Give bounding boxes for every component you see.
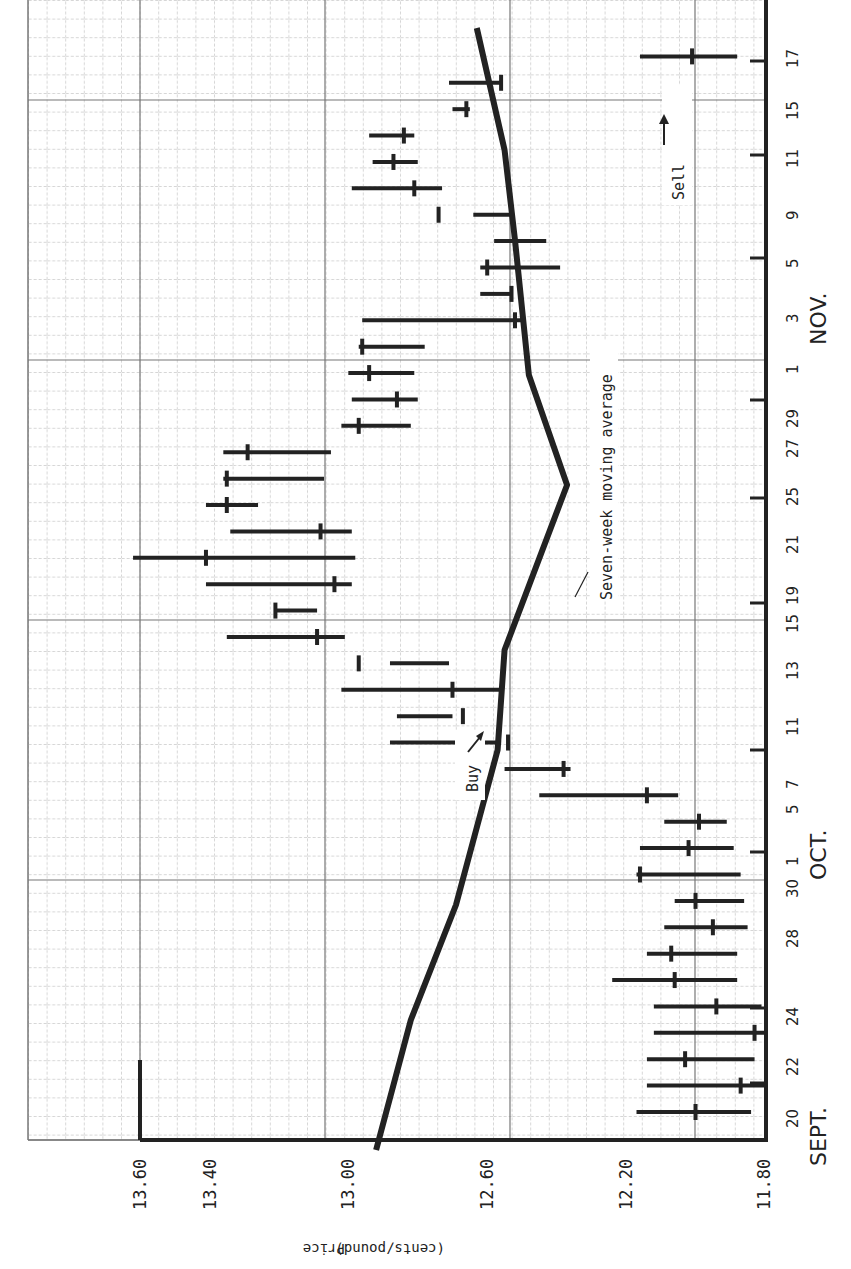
price-tick-label: 13.00 (338, 1159, 358, 1210)
date-tick-label: 15 (784, 101, 802, 120)
price-tick-label: 12.20 (616, 1159, 636, 1210)
date-tick-label: 25 (784, 487, 802, 506)
plot-grid (28, 0, 766, 1140)
month-label-nov: NOV. (806, 292, 831, 345)
price-tick-label: 13.60 (130, 1159, 150, 1210)
ma-label: Seven-week moving average (598, 374, 616, 600)
date-tick-label: 5 (784, 258, 802, 268)
date-tick-label: 13 (784, 661, 802, 680)
date-tick-label: 21 (784, 535, 802, 554)
date-tick-label: 15 (784, 614, 802, 633)
date-tick-label: 9 (784, 210, 802, 220)
date-tick-label: 7 (784, 779, 802, 789)
date-tick-label: 11 (784, 717, 802, 736)
date-tick-label: 3 (784, 313, 802, 323)
price-tick-label: 11.80 (754, 1159, 774, 1210)
date-tick-label: 20 (784, 1109, 802, 1128)
price-chart: 202224283015711131519212527291359111517 … (0, 0, 851, 1269)
month-label-sept: SEPT. (806, 1107, 831, 1166)
buy-label: Buy (464, 765, 482, 792)
date-tick-label: 30 (784, 879, 802, 898)
date-tick-label: 27 (784, 439, 802, 458)
y-axis-title-unit: (cents/pound) (335, 1241, 445, 1257)
price-axis-labels: 13.6013.4013.0012.6012.2011.80 (130, 1159, 774, 1210)
date-axis-labels: 202224283015711131519212527291359111517 (784, 49, 802, 1128)
date-tick-label: 19 (784, 586, 802, 605)
price-tick-label: 13.40 (200, 1159, 220, 1210)
date-tick-label: 28 (784, 929, 802, 948)
sell-label: Sell (670, 164, 688, 200)
price-tick-label: 12.60 (477, 1159, 497, 1210)
date-tick-label: 22 (784, 1057, 802, 1076)
month-label-oct: OCT. (806, 830, 831, 881)
date-tick-label: 1 (784, 364, 802, 374)
date-tick-label: 11 (784, 149, 802, 168)
buy-annotation: Buy (455, 730, 485, 800)
date-tick-label: 1 (784, 856, 802, 866)
date-tick-label: 5 (784, 804, 802, 814)
date-tick-label: 24 (784, 1007, 802, 1026)
date-tick-label: 29 (784, 409, 802, 428)
date-tick-label: 17 (784, 49, 802, 68)
sell-annotation: Sell (659, 85, 692, 205)
